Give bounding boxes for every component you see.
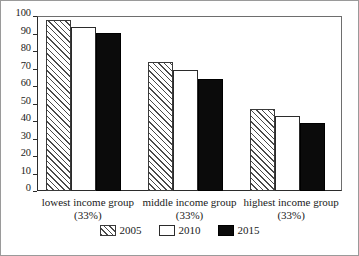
y-axis-tick-mark <box>33 34 37 35</box>
y-axis-tick-label: 0 <box>26 183 31 193</box>
bar-2005-2 <box>148 62 173 191</box>
bar-2010-1 <box>71 27 96 192</box>
y-axis-tick-mark <box>33 174 37 175</box>
bar-2010-2 <box>173 70 198 191</box>
y-axis-tick-label: 10 <box>21 166 31 176</box>
y-axis-tick-label: 60 <box>21 78 31 88</box>
y-axis-tick-label: 30 <box>21 131 31 141</box>
y-axis-tick-mark <box>33 156 37 157</box>
legend-label: 2010 <box>179 225 201 236</box>
legend-label: 2005 <box>120 225 142 236</box>
y-axis-tick-mark <box>33 86 37 87</box>
bar-2010-3 <box>275 116 300 191</box>
y-axis-tick-label: 90 <box>21 26 31 36</box>
x-axis-category-label: highest income group(33%) <box>230 196 352 222</box>
white-swatch <box>159 225 175 236</box>
bar-chart-figure: 0102030405060708090100 lowest income gro… <box>0 0 359 256</box>
bar-2005-1 <box>46 20 71 191</box>
y-axis-tick-label: 40 <box>21 113 31 123</box>
y-axis-tick-label: 100 <box>16 8 31 18</box>
y-axis-tick-mark <box>33 139 37 140</box>
legend-item-2010: 2010 <box>159 225 201 236</box>
y-axis-tick-mark <box>33 16 37 17</box>
category-label-line2: (33%) <box>230 209 352 222</box>
legend-item-2005: 2005 <box>100 225 142 236</box>
bar-2015-2 <box>198 79 223 191</box>
y-axis-tick-label: 80 <box>21 43 31 53</box>
legend-label: 2015 <box>238 225 260 236</box>
y-axis-tick-mark <box>33 51 37 52</box>
y-axis-tick-mark <box>33 69 37 70</box>
legend-item-2015: 2015 <box>218 225 260 236</box>
y-axis-tick-label: 50 <box>21 96 31 106</box>
y-axis-tick-label: 20 <box>21 148 31 158</box>
black-swatch <box>218 225 234 236</box>
y-axis-tick-label: 70 <box>21 61 31 71</box>
y-axis-tick-mark <box>33 121 37 122</box>
hatched-swatch <box>100 225 116 236</box>
bar-2005-3 <box>250 109 275 191</box>
y-axis-tick-mark <box>33 191 37 192</box>
category-label-line1: highest income group <box>230 196 352 209</box>
bar-2015-1 <box>96 33 121 191</box>
bar-2015-3 <box>300 123 325 191</box>
y-axis-tick-mark <box>33 104 37 105</box>
chart-legend: 200520102015 <box>1 225 358 236</box>
